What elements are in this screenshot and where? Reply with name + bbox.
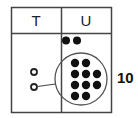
counter-dot (71, 92, 79, 100)
place-value-diagram: T U 10 (0, 0, 138, 118)
counter-dot (71, 81, 79, 89)
counter-dot (82, 81, 90, 89)
tens-hollow-counters (31, 69, 37, 90)
grouped-ten-counters (71, 59, 101, 100)
counter-dot (93, 70, 101, 78)
hollow-counter (31, 84, 37, 90)
group-of-ten-circle (55, 53, 107, 105)
tens-header: T (31, 12, 40, 29)
counter-dot (93, 81, 101, 89)
counter-dot (73, 37, 81, 45)
loose-ones-counters (62, 37, 81, 45)
ones-header: U (81, 12, 92, 29)
counter-dot (71, 70, 79, 78)
counter-dot (82, 70, 90, 78)
counter-dot (82, 92, 90, 100)
counter-dot (82, 59, 90, 67)
counter-dot (62, 37, 70, 45)
counter-dot (71, 59, 79, 67)
hollow-counter (31, 69, 37, 75)
regroup-connector-line (38, 84, 56, 87)
group-label: 10 (117, 69, 134, 86)
